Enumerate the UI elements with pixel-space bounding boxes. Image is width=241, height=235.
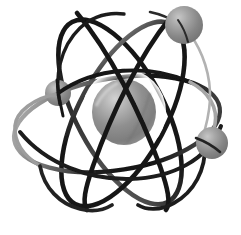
atom-illustration: Atom Grayscale illustration of an atom: … (0, 0, 241, 235)
electron-right (196, 127, 228, 159)
atom-canvas: Atom Grayscale illustration of an atom: … (0, 0, 241, 235)
electron-top-right (165, 6, 203, 44)
